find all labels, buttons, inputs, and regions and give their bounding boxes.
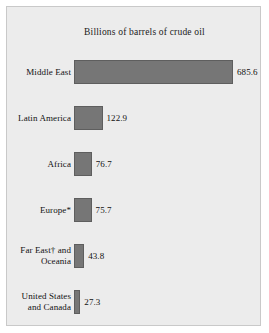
bar-rect[interactable] [74,60,233,84]
bar-value-label: 27.3 [84,297,100,307]
bar-rect[interactable] [74,106,103,130]
bar-track: 75.7 [74,198,112,222]
bar-row: Europe*75.7 [7,187,261,233]
bar-value-label: 76.7 [96,159,112,169]
bar-track: 685.6 [74,60,258,84]
bar-track: 43.8 [74,244,104,268]
bar-rect[interactable] [74,290,80,314]
plot-area: Middle East685.6Latin America122.9Africa… [7,49,261,325]
bar-rect[interactable] [74,244,84,268]
bar-row: United States and Canada27.3 [7,279,261,325]
bar-category-label: Latin America [18,113,71,124]
bar-row: Middle East685.6 [7,49,261,95]
chart-title: Billions of barrels of crude oil [7,27,260,37]
bar-track: 27.3 [74,290,100,314]
bar-category-label: Africa [47,159,71,170]
bar-category-label: United States and Canada [22,291,71,313]
bar-value-label: 43.8 [88,251,104,261]
bar-value-label: 685.6 [237,67,258,77]
bar-row: Far East† and Oceania43.8 [7,233,261,279]
bar-category-label: Middle East [26,67,71,78]
chart-panel: Billions of barrels of crude oil Middle … [6,6,261,326]
bar-category-label: Far East† and Oceania [20,245,71,267]
bar-value-label: 75.7 [96,205,112,215]
bar-category-label: Europe* [40,205,71,216]
bar-rect[interactable] [74,152,92,176]
bar-value-label: 122.9 [107,113,128,123]
bar-track: 76.7 [74,152,112,176]
bar-track: 122.9 [74,106,127,130]
bar-row: Latin America122.9 [7,95,261,141]
bar-rect[interactable] [74,198,92,222]
bar-row: Africa76.7 [7,141,261,187]
